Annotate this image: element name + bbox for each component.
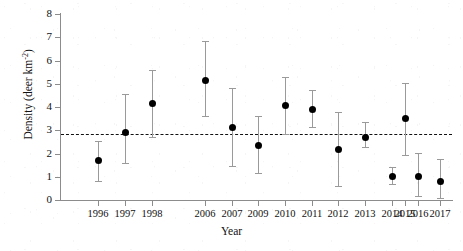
y-tick-label: 6 bbox=[24, 55, 52, 66]
data-point-marker bbox=[389, 173, 396, 180]
y-tick-label: 5 bbox=[24, 78, 52, 89]
x-tick-mark bbox=[98, 201, 99, 206]
data-point-marker bbox=[362, 134, 369, 141]
error-bar-cap-upper bbox=[255, 116, 262, 117]
y-tick-label: 1 bbox=[24, 171, 52, 182]
y-tick-mark bbox=[55, 84, 60, 85]
error-bar-cap-upper bbox=[122, 94, 129, 95]
error-bar-cap-lower bbox=[202, 116, 209, 117]
error-bar-cap-upper bbox=[229, 88, 236, 89]
mean-reference-line bbox=[61, 134, 452, 135]
y-tick-mark bbox=[55, 61, 60, 62]
error-bar-cap-lower bbox=[95, 181, 102, 182]
error-bar-cap-lower bbox=[415, 196, 422, 197]
error-bar-cap-upper bbox=[437, 159, 444, 160]
error-bar-cap-upper bbox=[389, 167, 396, 168]
error-bar-cap-lower bbox=[437, 198, 444, 199]
data-point-marker bbox=[122, 129, 129, 136]
data-point-marker bbox=[229, 124, 236, 131]
y-tick-label: 2 bbox=[24, 148, 52, 159]
data-point-marker bbox=[309, 106, 316, 113]
data-point-marker bbox=[437, 178, 444, 185]
error-bar-cap-upper bbox=[95, 141, 102, 142]
y-tick-mark bbox=[55, 37, 60, 38]
x-tick-mark bbox=[285, 201, 286, 206]
error-bar-cap-lower bbox=[122, 163, 129, 164]
y-axis-line bbox=[60, 13, 61, 201]
data-point-marker bbox=[202, 77, 209, 84]
error-bar-cap-upper bbox=[335, 112, 342, 113]
error-bar-cap-upper bbox=[309, 90, 316, 91]
x-axis-title: Year bbox=[0, 225, 463, 238]
y-tick-label: 0 bbox=[24, 194, 52, 205]
data-point-marker bbox=[95, 157, 102, 164]
data-point-marker bbox=[255, 142, 262, 149]
data-point-marker bbox=[402, 115, 409, 122]
error-bar-cap-lower bbox=[149, 137, 156, 138]
error-bar-cap-lower bbox=[335, 186, 342, 187]
data-point-marker bbox=[335, 146, 342, 153]
y-tick-mark bbox=[55, 14, 60, 15]
x-tick-mark bbox=[152, 201, 153, 206]
y-tick-label-text: 1 bbox=[28, 171, 52, 182]
y-tick-mark bbox=[55, 200, 60, 201]
y-tick-label-text: 5 bbox=[28, 78, 52, 89]
error-bar-cap-lower bbox=[402, 155, 409, 156]
error-bar-cap-lower bbox=[309, 127, 316, 128]
y-tick-label-text: 2 bbox=[28, 148, 52, 159]
y-tick-label-text: 0 bbox=[28, 194, 52, 205]
x-tick-mark bbox=[365, 201, 366, 206]
x-tick-mark bbox=[440, 201, 441, 206]
error-bar-cap-lower bbox=[282, 134, 289, 135]
x-tick-mark bbox=[392, 201, 393, 206]
error-bar-cap-lower bbox=[362, 147, 369, 148]
y-axis-title-close: ) bbox=[22, 49, 34, 53]
error-bar-cap-upper bbox=[362, 122, 369, 123]
y-tick-mark bbox=[55, 154, 60, 155]
error-bar-cap-upper bbox=[402, 83, 409, 84]
x-tick-mark bbox=[232, 201, 233, 206]
y-tick-mark bbox=[55, 130, 60, 131]
data-point-marker bbox=[415, 173, 422, 180]
y-tick-label-text: 7 bbox=[28, 31, 52, 42]
x-tick-mark bbox=[125, 201, 126, 206]
data-point-marker bbox=[149, 100, 156, 107]
y-tick-mark bbox=[55, 177, 60, 178]
x-tick-mark bbox=[205, 201, 206, 206]
y-tick-label-text: 4 bbox=[28, 101, 52, 112]
y-tick-label: 8 bbox=[24, 8, 52, 19]
x-tick-mark bbox=[338, 201, 339, 206]
y-tick-mark bbox=[55, 107, 60, 108]
y-tick-label-text: 3 bbox=[28, 124, 52, 135]
error-bar-cap-upper bbox=[415, 153, 422, 154]
y-tick-label: 4 bbox=[24, 101, 52, 112]
y-tick-label: 3 bbox=[24, 124, 52, 135]
y-tick-label-text: 6 bbox=[28, 55, 52, 66]
data-point-marker bbox=[282, 102, 289, 109]
x-tick-label: 2017 bbox=[424, 208, 456, 220]
y-tick-label-text: 8 bbox=[28, 8, 52, 19]
y-tick-label: 7 bbox=[24, 31, 52, 42]
error-bar-cap-lower bbox=[389, 184, 396, 185]
x-tick-mark bbox=[312, 201, 313, 206]
error-bar-cap-upper bbox=[282, 77, 289, 78]
x-tick-label: 1998 bbox=[136, 208, 168, 220]
x-tick-mark bbox=[405, 201, 406, 206]
x-axis-line bbox=[60, 200, 453, 201]
x-tick-mark bbox=[418, 201, 419, 206]
error-bar-cap-lower bbox=[229, 166, 236, 167]
error-bar-cap-lower bbox=[255, 173, 262, 174]
error-bar-cap-upper bbox=[202, 41, 209, 42]
deer-density-chart: Density (deer km-2) 012345678 1996199719… bbox=[0, 0, 463, 251]
x-tick-mark bbox=[258, 201, 259, 206]
error-bar-cap-upper bbox=[149, 70, 156, 71]
